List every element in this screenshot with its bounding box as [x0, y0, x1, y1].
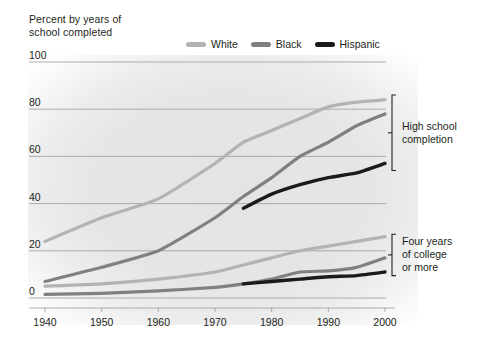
line-high-school-completion-hispanic [243, 163, 385, 208]
chart-root: Percent by years of school completed Whi… [0, 0, 480, 342]
line-high-school-completion-white [45, 100, 385, 242]
bracket-annotations [388, 95, 396, 276]
chart-plot-area [0, 0, 480, 342]
bracket-college [388, 234, 396, 275]
line-four-years-of-college-or-more-hispanic [243, 272, 385, 284]
data-lines [45, 100, 385, 295]
line-high-school-completion-black [45, 114, 385, 282]
axis-lines [29, 308, 395, 312]
line-four-years-of-college-or-more-white [45, 237, 385, 287]
gridlines [29, 62, 386, 298]
bracket-high-school [388, 95, 396, 171]
